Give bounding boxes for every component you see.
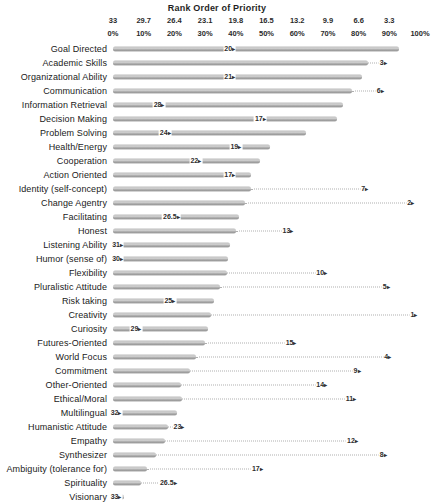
leader-line <box>156 455 383 456</box>
rank-marker: 3▸ <box>379 59 388 67</box>
rank-marker: 1▸ <box>409 311 418 319</box>
chart-row: Communication6▸ <box>0 84 434 98</box>
row-plot-area: 17▸ <box>113 112 420 126</box>
row-plot-area: 5▸ <box>113 280 420 294</box>
value-bar <box>113 117 337 122</box>
rank-number: 26.5 <box>160 479 174 486</box>
leader-line <box>181 385 322 386</box>
value-bar <box>113 243 230 248</box>
leader-line <box>236 231 288 232</box>
leader-line <box>196 357 388 358</box>
value-bar <box>113 439 165 444</box>
value-bar <box>113 257 228 262</box>
rank-marker: 7▸ <box>360 185 369 193</box>
chart-row: Listening Ability31▸ <box>0 238 434 252</box>
value-bar <box>113 47 399 52</box>
rank-tick: 23.1 <box>198 16 213 25</box>
rank-number: 24 <box>160 129 168 136</box>
rank-number: 21 <box>224 73 232 80</box>
leader-line <box>205 343 291 344</box>
row-plot-area: 23▸ <box>113 420 420 434</box>
row-plot-area: 21▸ <box>113 70 420 84</box>
right-arrow-icon: ▸ <box>118 410 121 416</box>
chart-row: Identity (self-concept)7▸ <box>0 182 434 196</box>
right-arrow-icon: ▸ <box>120 242 123 248</box>
rank-marker: 13▸ <box>282 227 295 235</box>
row-plot-area: 17▸ <box>113 168 420 182</box>
right-arrow-icon: ▸ <box>263 116 266 122</box>
rank-number: 15 <box>286 339 294 346</box>
rank-number: 14 <box>316 381 324 388</box>
right-arrow-icon: ▸ <box>232 46 235 52</box>
row-plot-area: 31▸ <box>113 238 420 252</box>
row-plot-area: 25▸ <box>113 294 420 308</box>
row-plot-area: 11▸ <box>113 392 420 406</box>
rank-marker: 21▸ <box>223 73 236 81</box>
chart-row: Ethical/Moral11▸ <box>0 392 434 406</box>
row-plot-area: 15▸ <box>113 336 420 350</box>
row-plot-area: 1▸ <box>113 308 420 322</box>
chart-title: Rank Order of Priority <box>0 0 434 15</box>
row-plot-area: 29▸ <box>113 322 420 336</box>
chart-row: Honest13▸ <box>0 224 434 238</box>
right-arrow-icon: ▸ <box>324 382 327 388</box>
value-bar <box>113 369 190 374</box>
rank-marker: 25▸ <box>163 297 176 305</box>
rank-number: 17 <box>255 115 263 122</box>
category-label: Action Oriented <box>0 170 107 180</box>
leader-line <box>245 203 411 204</box>
category-label: Problem Solving <box>0 128 107 138</box>
rank-number: 23 <box>174 423 182 430</box>
row-plot-area: 26.5▸ <box>113 476 420 490</box>
row-plot-area: 19▸ <box>113 140 420 154</box>
right-arrow-icon: ▸ <box>168 130 171 136</box>
rank-marker: 9▸ <box>353 367 362 375</box>
right-arrow-icon: ▸ <box>384 60 387 66</box>
rank-number: 31 <box>112 241 120 248</box>
chart-row: Academic Skills3▸ <box>0 56 434 70</box>
rank-tick: 3.3 <box>384 16 394 25</box>
rank-marker: 17▸ <box>254 115 267 123</box>
rank-marker: 4▸ <box>383 353 392 361</box>
right-arrow-icon: ▸ <box>118 494 121 500</box>
value-bar <box>113 187 251 192</box>
category-label: Health/Energy <box>0 142 107 152</box>
right-arrow-icon: ▸ <box>172 298 175 304</box>
category-label: Organizational Ability <box>0 72 107 82</box>
rank-number: 22 <box>190 157 198 164</box>
rank-marker: 31▸ <box>111 241 124 249</box>
value-bar <box>113 383 181 388</box>
row-plot-area: 12▸ <box>113 434 420 448</box>
chart-row: Ambiguity (tolerance for)17▸ <box>0 462 434 476</box>
right-arrow-icon: ▸ <box>358 368 361 374</box>
category-label: Empathy <box>0 436 107 446</box>
category-label: Honest <box>0 226 107 236</box>
rank-marker: 20▸ <box>223 45 236 53</box>
right-arrow-icon: ▸ <box>414 312 417 318</box>
right-arrow-icon: ▸ <box>181 424 184 430</box>
rank-tick: 19.8 <box>228 16 243 25</box>
row-plot-area: 7▸ <box>113 182 420 196</box>
chart-row: Futures-Oriented15▸ <box>0 336 434 350</box>
category-label: Ethical/Moral <box>0 394 107 404</box>
value-bar <box>113 481 141 486</box>
right-arrow-icon: ▸ <box>174 480 177 486</box>
category-label: Academic Skills <box>0 58 107 68</box>
rank-marker: 10▸ <box>315 269 328 277</box>
percent-tick: 40% <box>228 29 243 38</box>
category-label: Other-Oriented <box>0 380 107 390</box>
rank-number: 17 <box>252 465 260 472</box>
percent-tick: 90% <box>382 29 397 38</box>
chart-row: Humanistic Attitude23▸ <box>0 420 434 434</box>
rank-marker: 19▸ <box>229 143 242 151</box>
right-arrow-icon: ▸ <box>411 200 414 206</box>
chart-row: Decision Making17▸ <box>0 112 434 126</box>
right-arrow-icon: ▸ <box>161 102 164 108</box>
right-arrow-icon: ▸ <box>138 326 141 332</box>
chart-row: Flexibility10▸ <box>0 266 434 280</box>
row-plot-area: 2▸ <box>113 196 420 210</box>
rank-marker: 8▸ <box>379 451 388 459</box>
category-label: Identity (self-concept) <box>0 184 107 194</box>
right-arrow-icon: ▸ <box>388 354 391 360</box>
value-bar <box>113 411 177 416</box>
